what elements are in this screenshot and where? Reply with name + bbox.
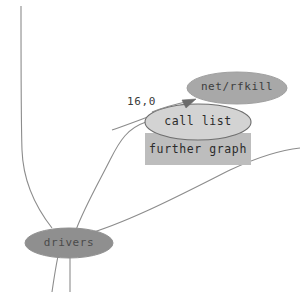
- edge-drivers-to-call-list: [76, 122, 146, 230]
- node-label-call-list: call list: [148, 114, 248, 128]
- edge-weight-label: 16,0: [127, 95, 159, 109]
- edge-drivers-stub-left: [52, 256, 58, 292]
- node-label-net-rfkill: net/rfkill: [187, 80, 287, 94]
- node-label-drivers: drivers: [25, 236, 113, 250]
- diagram-canvas: net/rfkill call list further graph drive…: [0, 0, 304, 296]
- edge-top-left-to-drivers: [21, 6, 52, 228]
- node-label-further-graph: further graph: [145, 142, 251, 156]
